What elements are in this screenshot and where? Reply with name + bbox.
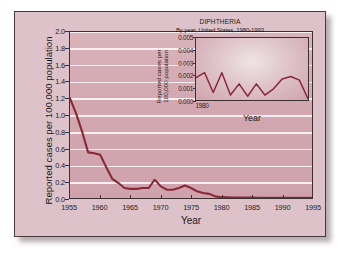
inset-y-tick-label: 0.003 [153, 59, 193, 66]
main-y-tick-label: 0.2 [31, 178, 65, 187]
main-x-tick-label: 1970 [144, 203, 178, 212]
inset-x-tick-1980: 1980 [184, 102, 220, 109]
main-x-tick-mark [130, 195, 131, 199]
main-y-tick-label: 2.0 [31, 27, 65, 36]
main-x-tick-mark [283, 195, 284, 199]
main-y-tick-label: 1.2 [31, 94, 65, 103]
main-y-tick-label: 1.4 [31, 77, 65, 86]
inset-y-tick-label: 0.001 [153, 85, 193, 92]
main-x-tick-label: 1985 [235, 203, 269, 212]
main-x-tick-label: 1965 [113, 203, 147, 212]
main-y-tick-label: 0.8 [31, 127, 65, 136]
main-x-tick-mark [191, 195, 192, 199]
main-y-tick-label: 0.4 [31, 161, 65, 170]
figure-frame: Reported cases per 100,000 population 0.… [14, 11, 326, 237]
inset-title: DIPHTHERIA [127, 18, 313, 25]
main-x-tick-label: 1995 [296, 203, 330, 212]
main-y-tick-label: 1.6 [31, 60, 65, 69]
inset-y-tick-label: 0.002 [153, 72, 193, 79]
main-y-tick-label: 1.8 [31, 43, 65, 52]
main-y-tick-label: 1.0 [31, 111, 65, 120]
main-x-tick-label: 1980 [205, 203, 239, 212]
main-x-tick-label: 1975 [174, 203, 208, 212]
main-x-tick-mark [100, 195, 101, 199]
main-x-tick-label: 1960 [83, 203, 117, 212]
main-x-axis-title: Year [69, 215, 313, 226]
inset-x-axis-title: Year [195, 113, 309, 123]
main-y-tick-mark [65, 199, 69, 200]
inset-y-tick-label: 0.005 [153, 34, 193, 41]
inset-chart: DIPHTHERIA By year, United States, 1980-… [127, 13, 313, 117]
main-x-tick-mark [161, 195, 162, 199]
inset-series-line [196, 38, 308, 100]
main-x-tick-label: 1955 [52, 203, 86, 212]
main-x-tick-label: 1990 [266, 203, 300, 212]
inset-subtitle: By year, United States, 1980-1993 [127, 27, 313, 33]
main-x-tick-mark [222, 195, 223, 199]
main-x-tick-mark [252, 195, 253, 199]
inset-plot-area [195, 37, 309, 101]
main-y-tick-label: 0.6 [31, 144, 65, 153]
chart-figure-root: Reported cases per 100,000 population 0.… [0, 0, 348, 255]
inset-y-tick-label: 0.004 [153, 46, 193, 53]
